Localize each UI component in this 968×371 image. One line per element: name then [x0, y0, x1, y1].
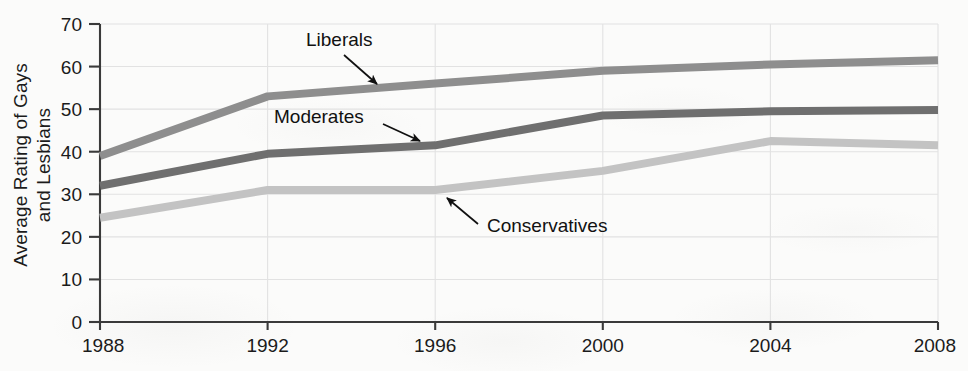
gridlines [100, 24, 938, 322]
y-tick-label: 10 [61, 269, 82, 290]
annotation-arrow-moderates [383, 124, 420, 141]
y-tick-label: 50 [61, 99, 82, 120]
line-chart: 010203040506070 198819921996200020042008… [0, 0, 968, 371]
x-tick-label: 1992 [246, 335, 288, 356]
y-tick-label: 30 [61, 184, 82, 205]
x-tick-label: 1996 [414, 335, 456, 356]
x-tick-label: 2000 [582, 335, 624, 356]
x-tick-labels: 198819921996200020042008 [82, 335, 956, 356]
axis-lines [100, 24, 938, 322]
series-line-conservatives [100, 141, 938, 218]
x-tick-label: 2008 [914, 335, 956, 356]
y-tick-label: 0 [71, 312, 82, 333]
series-line-moderates [100, 110, 938, 186]
y-tick-labels: 010203040506070 [61, 14, 82, 333]
chart-page: Average Rating of Gays and Lesbians 0102… [0, 0, 968, 371]
y-tick-label: 40 [61, 142, 82, 163]
x-tick-label: 2004 [749, 335, 792, 356]
tick-marks [89, 24, 938, 330]
annotation-arrow-conservatives [447, 198, 478, 224]
y-tick-label: 20 [61, 227, 82, 248]
series-annotations: LiberalsModeratesConservatives [274, 29, 607, 236]
annotation-label-moderates: Moderates [274, 106, 364, 127]
x-tick-label: 1988 [82, 335, 124, 356]
y-tick-label: 60 [61, 57, 82, 78]
annotation-label-conservatives: Conservatives [487, 215, 607, 236]
annotation-label-liberals: Liberals [306, 29, 373, 50]
annotation-arrow-liberals [344, 55, 377, 84]
y-tick-label: 70 [61, 14, 82, 35]
